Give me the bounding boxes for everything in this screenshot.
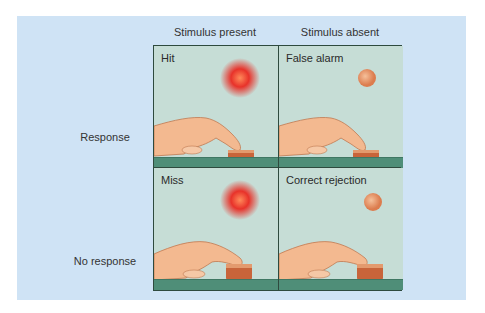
strong-stimulus-icon [220,58,260,98]
grid-divider-horizontal [154,167,401,168]
strong-stimulus-icon [220,180,260,220]
hand-resting-icon [154,234,278,280]
cell-label: False alarm [286,52,343,64]
button-icon [226,264,252,280]
weak-stimulus-icon [357,68,377,88]
cell-label: Correct rejection [286,174,367,186]
column-header-stimulus-absent: Stimulus absent [278,26,402,38]
cell-label: Hit [161,52,174,64]
hand-resting-icon [279,234,403,280]
weak-stimulus-icon [363,192,383,212]
button-icon [357,264,383,280]
hand-pressing-icon [279,112,403,158]
cell-hit: Hit [154,46,278,168]
signal-detection-grid: Hit False alarm Miss [153,45,402,291]
grid-divider-vertical [278,46,279,290]
cell-false-alarm: False alarm [279,46,403,168]
hand-pressing-icon [154,112,278,158]
row-header-no-response: No response [60,255,150,267]
column-header-stimulus-present: Stimulus present [153,26,277,38]
floor [154,279,278,290]
row-header-response: Response [60,131,150,143]
floor [279,279,403,290]
cell-label: Miss [161,174,184,186]
cell-miss: Miss [154,168,278,290]
cell-correct-rejection: Correct rejection [279,168,403,290]
